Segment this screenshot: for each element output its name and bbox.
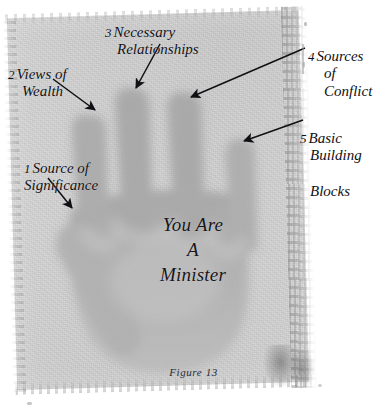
callout-2-number: 2 bbox=[8, 67, 17, 82]
callout-2-line-2: Wealth bbox=[8, 83, 67, 101]
callout-4-line-2: of Conflict bbox=[308, 65, 387, 100]
callout-4-number: 4 bbox=[308, 49, 317, 64]
callout-views-of-wealth: 2Views of Wealth bbox=[8, 48, 67, 119]
figure-13-illustration: You Are A Minister 1Source of Significan… bbox=[0, 0, 387, 413]
callout-5-number: 5 bbox=[300, 131, 309, 146]
callout-5-line-2: Building bbox=[300, 147, 362, 165]
callout-5-line-1: Basic bbox=[309, 130, 342, 146]
scan-speck bbox=[318, 384, 322, 387]
callout-3-line-1: Necessary bbox=[114, 24, 176, 40]
callout-necessary-relationships: 3Necessary Relationships bbox=[105, 6, 199, 77]
callout-4-line-1: Sources bbox=[317, 48, 364, 64]
scan-speck bbox=[27, 402, 32, 405]
callout-sources-of-conflict: 4Sources of Conflict bbox=[308, 30, 387, 118]
callout-basic-building-blocks: 5Basic Building Blocks bbox=[300, 112, 362, 218]
callout-2-line-1: Views of bbox=[17, 66, 67, 82]
callout-1-number: 1 bbox=[24, 161, 33, 176]
callout-3-number: 3 bbox=[105, 25, 114, 40]
callout-3-line-2: Relationships bbox=[105, 41, 199, 59]
callout-1-line-2: Significance bbox=[24, 177, 98, 195]
callout-1-line-1: Source of bbox=[33, 160, 90, 176]
scan-speck bbox=[304, 22, 307, 26]
callout-5-line-3: Blocks bbox=[300, 183, 362, 201]
callout-source-of-significance: 1Source of Significance bbox=[24, 142, 98, 213]
figure-caption: Figure 13 bbox=[0, 366, 387, 378]
scan-speck bbox=[303, 62, 305, 68]
